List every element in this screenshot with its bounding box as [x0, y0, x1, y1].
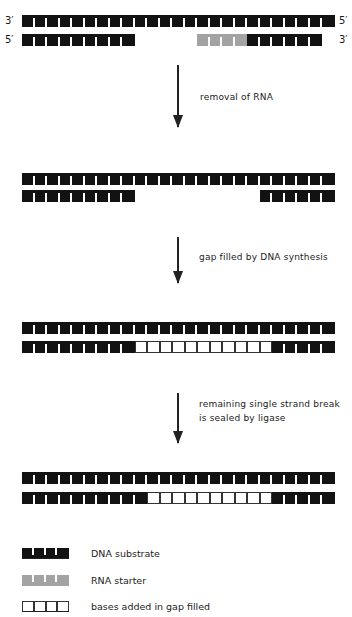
strand-gap — [247, 190, 260, 202]
step-label-removal: removal of RNA — [200, 90, 273, 104]
dna-base-block — [97, 322, 110, 334]
dna-base-block — [272, 492, 285, 504]
dna-base-block — [160, 322, 173, 334]
dna-base-block — [85, 173, 98, 185]
dna-base-block — [135, 492, 148, 504]
dna-base-block — [285, 190, 298, 202]
dna-base-block — [122, 341, 135, 353]
five-prime-label: 5′ — [5, 34, 14, 46]
dna-top-strand-stage4 — [22, 472, 335, 484]
open-block-icon — [22, 601, 69, 612]
dna-base-block — [47, 173, 60, 185]
dna-base-block — [47, 492, 60, 504]
dna-base-block — [22, 173, 35, 185]
dna-base-block — [247, 322, 260, 334]
dna-bottom-strand-stage4 — [22, 492, 335, 504]
dna-base-block — [97, 472, 110, 484]
dna-base-block — [85, 341, 98, 353]
dna-base-block — [122, 190, 135, 202]
open-base-block — [235, 341, 248, 353]
dna-base-block — [22, 34, 35, 46]
dna-base-block — [272, 15, 285, 27]
dna-base-block — [322, 492, 335, 504]
dna-base-block — [210, 322, 223, 334]
dna-base-block — [135, 15, 148, 27]
step-label-gap-filled: gap filled by DNA synthesis — [199, 250, 328, 264]
dna-base-block — [160, 15, 173, 27]
dna-base-block — [47, 341, 60, 353]
dna-base-block — [47, 190, 60, 202]
dna-base-block — [322, 190, 335, 202]
dna-base-block — [222, 472, 235, 484]
legend-label: DNA substrate — [91, 548, 160, 559]
rna-base-block — [235, 34, 248, 46]
strand-gap — [222, 190, 235, 202]
legend-label: bases added in gap filled — [91, 601, 210, 612]
dna-base-block — [197, 472, 210, 484]
dna-base-block — [272, 190, 285, 202]
dna-base-block — [35, 34, 48, 46]
dna-base-block — [247, 173, 260, 185]
dna-base-block — [47, 34, 60, 46]
dna-base-block — [85, 190, 98, 202]
dna-base-block — [72, 341, 85, 353]
dna-base-block — [260, 190, 273, 202]
open-base-block — [247, 492, 260, 504]
dna-base-block — [110, 173, 123, 185]
dna-base-block — [60, 472, 73, 484]
dna-base-block — [322, 472, 335, 484]
dna-base-block — [247, 472, 260, 484]
open-base-block — [247, 341, 260, 353]
dna-base-block — [310, 472, 323, 484]
dna-base-block — [185, 322, 198, 334]
dna-base-block — [110, 341, 123, 353]
dna-base-block — [260, 472, 273, 484]
dna-base-block — [97, 173, 110, 185]
open-base-block — [172, 492, 185, 504]
dna-base-block — [135, 173, 148, 185]
dna-base-block — [72, 34, 85, 46]
dna-base-block — [110, 322, 123, 334]
strand-gap — [172, 190, 185, 202]
dna-block-icon — [22, 548, 69, 559]
dna-base-block — [22, 472, 35, 484]
dna-base-block — [110, 190, 123, 202]
arrow-down-icon — [177, 237, 179, 283]
dna-base-block — [272, 341, 285, 353]
dna-base-block — [97, 492, 110, 504]
strand-gap — [185, 190, 198, 202]
dna-bottom-strand-stage3 — [22, 341, 335, 353]
open-base-block — [147, 341, 160, 353]
dna-base-block — [260, 15, 273, 27]
dna-top-strand-stage1 — [22, 15, 335, 27]
dna-base-block — [85, 322, 98, 334]
dna-base-block — [172, 472, 185, 484]
dna-base-block — [47, 15, 60, 27]
strand-gap — [160, 190, 173, 202]
strand-gap — [135, 190, 148, 202]
dna-base-block — [322, 173, 335, 185]
dna-base-block — [60, 492, 73, 504]
dna-base-block — [147, 173, 160, 185]
dna-base-block — [22, 341, 35, 353]
dna-base-block — [72, 492, 85, 504]
dna-base-block — [285, 34, 298, 46]
dna-base-block — [72, 472, 85, 484]
dna-base-block — [310, 34, 323, 46]
open-base-block — [160, 492, 173, 504]
dna-bottom-strand-stage2 — [22, 190, 335, 202]
dna-bottom-strand-stage1 — [22, 34, 322, 46]
dna-base-block — [60, 341, 73, 353]
dna-base-block — [85, 15, 98, 27]
dna-base-block — [285, 472, 298, 484]
strand-gap — [172, 34, 185, 46]
dna-top-strand-stage2 — [22, 173, 335, 185]
dna-base-block — [72, 15, 85, 27]
dna-base-block — [197, 15, 210, 27]
dna-base-block — [285, 492, 298, 504]
dna-base-block — [147, 322, 160, 334]
rna-block-icon — [22, 575, 69, 586]
open-base-block — [197, 492, 210, 504]
arrow-down-icon — [177, 393, 179, 443]
arrow-down-icon — [177, 65, 179, 127]
